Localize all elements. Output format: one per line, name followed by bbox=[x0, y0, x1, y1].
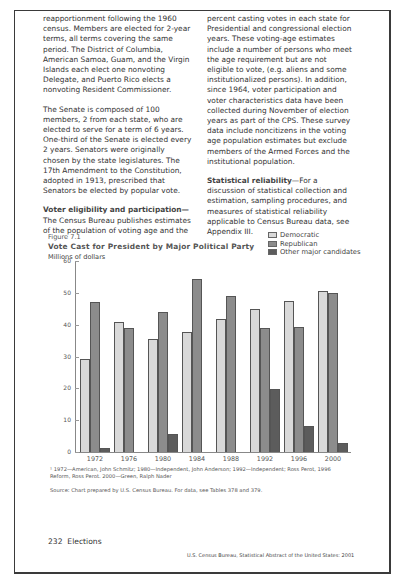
x-tick-label: 1992 bbox=[250, 455, 280, 463]
bar-other-2000 bbox=[338, 443, 348, 452]
y-tick-mark bbox=[75, 420, 79, 421]
x-axis bbox=[75, 452, 351, 453]
bar-democratic-1980 bbox=[148, 339, 158, 452]
x-tick-label: 1976 bbox=[114, 455, 144, 463]
y-tick-mark bbox=[75, 357, 79, 358]
bar-democratic-1988 bbox=[216, 319, 226, 452]
bar-republican-1996 bbox=[294, 327, 304, 452]
x-tick-label: 1980 bbox=[148, 455, 178, 463]
bar-other-1996 bbox=[304, 426, 314, 452]
bar-other-1972 bbox=[100, 448, 110, 452]
y-tick-label: 0 bbox=[57, 448, 71, 455]
y-tick-label: 60 bbox=[57, 257, 71, 264]
x-tick-label: 1996 bbox=[284, 455, 314, 463]
bar-republican-1980 bbox=[158, 312, 168, 452]
y-tick-mark bbox=[75, 293, 79, 294]
bar-republican-1976 bbox=[124, 328, 134, 452]
bar-republican-1988 bbox=[226, 296, 236, 452]
bar-chart: 0102030405060197219761980198419881992199… bbox=[0, 0, 404, 470]
y-tick-mark bbox=[75, 452, 79, 453]
x-tick-label: 2000 bbox=[318, 455, 348, 463]
bar-democratic-1984 bbox=[182, 332, 192, 452]
bar-democratic-1992 bbox=[250, 309, 260, 452]
y-tick-label: 20 bbox=[57, 384, 71, 391]
y-tick-mark bbox=[75, 261, 79, 262]
running-footer: U.S. Census Bureau, Statistical Abstract… bbox=[187, 552, 354, 558]
bar-other-1992 bbox=[270, 389, 280, 452]
bar-democratic-1996 bbox=[284, 301, 294, 452]
bar-republican-2000 bbox=[328, 293, 338, 452]
y-tick-label: 10 bbox=[57, 416, 71, 423]
page-number: 232 bbox=[48, 537, 63, 546]
bar-other-1980 bbox=[168, 434, 178, 452]
figure-source: Source: Chart prepared by U.S. Census Bu… bbox=[50, 487, 350, 493]
x-tick-label: 1972 bbox=[80, 455, 110, 463]
bar-democratic-1976 bbox=[114, 322, 124, 452]
y-tick-label: 40 bbox=[57, 321, 71, 328]
bar-republican-1984 bbox=[192, 279, 202, 452]
page-folio: 232 Elections bbox=[48, 537, 102, 546]
section-name: Elections bbox=[67, 537, 101, 546]
x-tick-label: 1984 bbox=[182, 455, 212, 463]
bar-republican-1992 bbox=[260, 328, 270, 452]
y-tick-label: 30 bbox=[57, 353, 71, 360]
bar-republican-1972 bbox=[90, 302, 100, 452]
y-tick-mark bbox=[75, 325, 79, 326]
y-tick-mark bbox=[75, 388, 79, 389]
y-tick-label: 50 bbox=[57, 289, 71, 296]
figure-footnote: ¹ 1972—American, John Schmitz; 1980—Inde… bbox=[50, 466, 350, 480]
bar-democratic-1972 bbox=[80, 359, 90, 452]
bar-democratic-2000 bbox=[318, 291, 328, 452]
x-tick-label: 1988 bbox=[216, 455, 246, 463]
